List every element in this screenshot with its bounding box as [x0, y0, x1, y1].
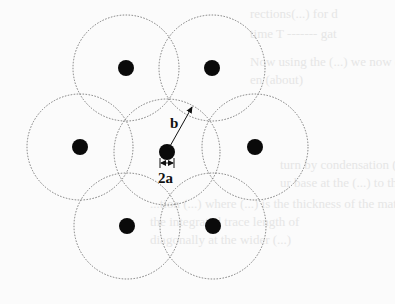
- hexagonal-circle-diagram: b 2a: [0, 0, 395, 304]
- radius-label-b: b: [170, 115, 178, 131]
- dot-bottom-right: [205, 218, 221, 234]
- dot-top-left: [118, 60, 134, 76]
- width-label-2a: 2a: [158, 170, 174, 186]
- dot-bottom-left: [119, 218, 135, 234]
- dot-middle-right: [247, 139, 263, 155]
- dot-middle-left: [72, 139, 88, 155]
- dot-top-right: [204, 60, 220, 76]
- dot-center: [159, 144, 175, 160]
- center-dots: [72, 60, 263, 234]
